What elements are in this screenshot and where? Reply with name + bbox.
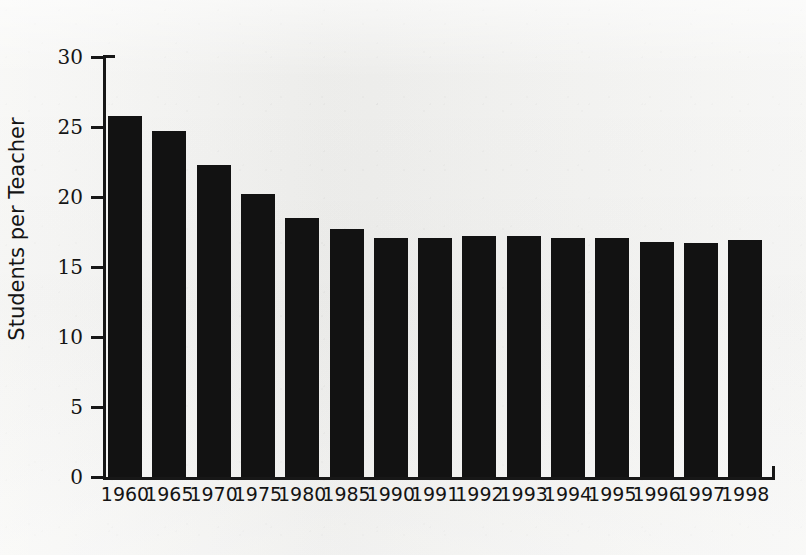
chart-page: 051015202530 Students per Teacher 196019… — [0, 0, 806, 555]
x-axis-tick-label: 1994 — [544, 483, 592, 505]
x-axis-tick-label: 1975 — [234, 483, 282, 505]
x-axis-line — [103, 477, 775, 480]
bar — [241, 194, 275, 477]
y-axis-tick-label: 5 — [70, 395, 83, 419]
y-axis-tick — [91, 476, 103, 479]
y-axis-tick-label: 0 — [70, 465, 83, 489]
chart-title — [0, 0, 806, 6]
x-axis-tick-label: 1985 — [322, 483, 370, 505]
y-axis-tick-label: 10 — [58, 325, 83, 349]
x-axis-tick-label: 1991 — [411, 483, 459, 505]
y-axis-tick — [91, 196, 103, 199]
y-axis-tick — [91, 56, 103, 59]
x-axis-tick-label: 1992 — [455, 483, 503, 505]
x-axis-tick-label: 1993 — [500, 483, 548, 505]
x-axis-tick-label: 1960 — [101, 483, 149, 505]
y-axis-tick-label: 25 — [58, 115, 83, 139]
plot-area: Students per Teacher — [103, 57, 772, 477]
bar — [285, 218, 319, 477]
bar — [462, 236, 496, 477]
y-axis-tick — [91, 406, 103, 409]
x-axis-tick-label: 1998 — [721, 483, 769, 505]
y-axis-tick-label: 20 — [58, 185, 83, 209]
bar — [197, 165, 231, 477]
bar — [684, 243, 718, 477]
bar — [330, 229, 364, 477]
x-axis-tick-label: 1995 — [588, 483, 636, 505]
bar — [640, 242, 674, 477]
bar — [728, 240, 762, 477]
x-axis-tick-labels: 1960196519701975198019851990199119921993… — [103, 483, 775, 513]
x-axis-tick-label: 1970 — [189, 483, 237, 505]
bar — [595, 238, 629, 477]
bar — [374, 238, 408, 477]
x-axis-tick-label: 1980 — [278, 483, 326, 505]
x-axis-tick-label: 1990 — [367, 483, 415, 505]
y-axis-tick — [91, 336, 103, 339]
x-axis-tick-label: 1965 — [145, 483, 193, 505]
y-axis-label: Students per Teacher — [5, 79, 29, 379]
y-axis-tick-label: 30 — [58, 45, 83, 69]
bar — [152, 131, 186, 477]
bar — [507, 236, 541, 477]
bar — [551, 238, 585, 477]
bar — [418, 238, 452, 477]
bar — [108, 116, 142, 477]
y-axis-tick-label: 15 — [58, 255, 83, 279]
y-axis-tick — [91, 266, 103, 269]
x-axis-tick-label: 1996 — [632, 483, 680, 505]
x-axis-tick-label: 1997 — [677, 483, 725, 505]
y-axis-tick — [91, 126, 103, 129]
x-axis-right-cap — [772, 466, 775, 480]
